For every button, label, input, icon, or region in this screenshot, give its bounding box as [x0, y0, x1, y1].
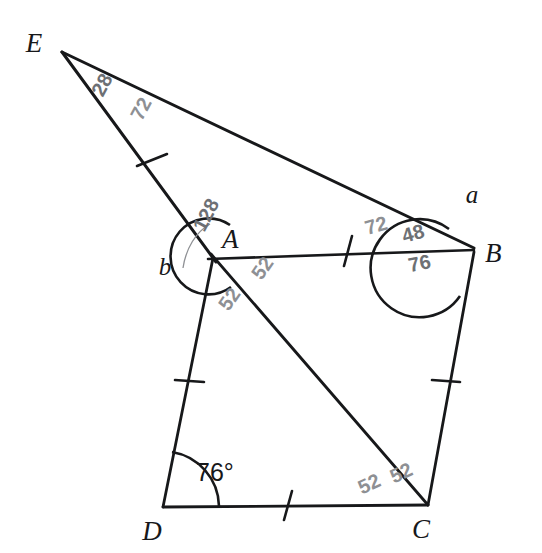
- vertex-label-D: D: [141, 516, 162, 546]
- tick-mark-AB: [344, 236, 352, 266]
- annotation-28-at-E: 28: [87, 70, 117, 100]
- segment-group: [62, 52, 474, 507]
- segment-EA: [62, 52, 216, 262]
- annotation-52-at-C-left: 52: [354, 469, 383, 498]
- tick-mark-AD: [175, 380, 204, 382]
- angle-label-d: 76°: [196, 458, 234, 486]
- segment-AB: [208, 250, 474, 259]
- tick-mark-BC: [432, 380, 460, 382]
- vertex-label-C: C: [412, 514, 431, 544]
- segment-DC: [163, 505, 428, 507]
- annotation-128-at-A: 128: [188, 195, 223, 235]
- annotation-76-at-B: 76: [406, 250, 432, 276]
- pencil-annotation-group: 28 72 128 52 52 72 48 76 52 52: [87, 70, 433, 499]
- diagram-canvas: E A B C D a b 76° 28 72 128 52 52 72 48 …: [0, 0, 542, 553]
- segment-BC: [428, 252, 474, 505]
- vertex-label-E: E: [25, 28, 43, 58]
- geometry-diagram: E A B C D a b 76° 28 72 128 52 52 72 48 …: [0, 0, 542, 553]
- vertex-label-B: B: [485, 238, 502, 268]
- angle-label-a: a: [466, 181, 479, 208]
- vertex-label-group: E A B C D: [25, 28, 502, 546]
- annotation-72-at-B: 72: [362, 212, 389, 239]
- angle-label-b: b: [159, 253, 172, 280]
- tick-mark-group: [137, 154, 460, 520]
- vertex-label-A: A: [220, 224, 239, 254]
- annotation-72-at-E: 72: [126, 94, 156, 124]
